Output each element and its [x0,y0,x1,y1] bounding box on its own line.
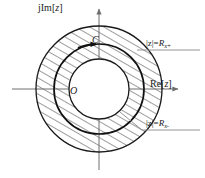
inner-roc-circle [69,59,129,119]
roc-diagram-svg [0,0,205,178]
inner-radius-subscript: x- [164,122,169,129]
inner-radius-label: |z|=Rx- [146,119,169,128]
real-axis-label-text: Re[ [150,78,164,89]
imaginary-axis-label-text: jIm[ [38,2,55,13]
outer-radius-subscript: x+ [164,42,171,49]
origin-label: O [70,86,77,96]
imaginary-axis-label: jIm[z] [38,3,62,13]
outer-radius-label: |z|=Rx+ [146,39,171,48]
imaginary-axis-label-close: ] [59,2,62,13]
inner-radius-magnitude: |z|= [146,118,159,128]
real-axis-label: Re[z] [150,79,172,89]
roc-figure: jIm[z] Re[z] O C |z|=Rx+ |z|=Rx- [0,0,205,178]
contour-label: C [92,35,99,45]
real-axis-label-close: ] [168,78,171,89]
outer-radius-magnitude: |z|= [146,38,159,48]
